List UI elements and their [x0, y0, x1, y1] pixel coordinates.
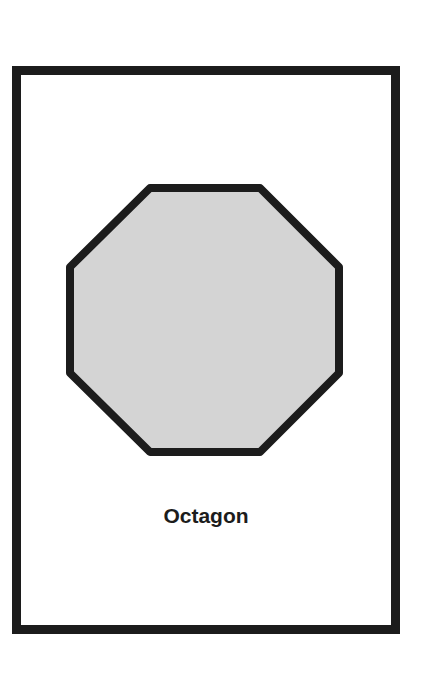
- octagon-shape: [0, 0, 421, 689]
- shape-label: Octagon: [0, 504, 412, 528]
